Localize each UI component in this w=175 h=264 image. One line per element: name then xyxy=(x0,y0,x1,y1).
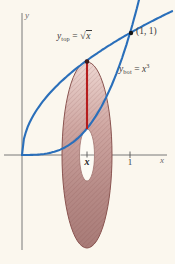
intersection-dot xyxy=(129,31,133,35)
top-curve-label: ytop = √x xyxy=(57,31,92,42)
radius-top-dot xyxy=(85,59,90,64)
radical-sign: √ xyxy=(80,30,86,41)
x-axis-label: x xyxy=(160,156,164,165)
bot-curve-label: ybot = x3 xyxy=(119,63,149,75)
tick-label-x: x xyxy=(81,157,93,167)
tick-label-one: 1 xyxy=(126,158,134,167)
top-curve-eq: = xyxy=(70,31,80,41)
top-curve-sub: top xyxy=(61,35,70,42)
intersection-label: (1, 1) xyxy=(136,27,157,37)
bot-curve-eq: = xyxy=(132,64,142,74)
radical-arg: x xyxy=(86,30,92,41)
y-axis-label: y xyxy=(25,11,29,20)
bot-curve-sub: bot xyxy=(123,68,132,75)
washer-method-figure: y x ytop = √x (1, 1) ybot = x3 x 1 xyxy=(0,0,175,264)
bot-curve-exp: 3 xyxy=(146,62,149,69)
